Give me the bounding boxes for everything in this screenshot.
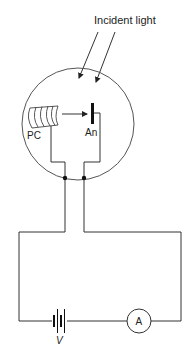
incident-light-arrows — [79, 32, 115, 82]
ammeter-label: A — [136, 316, 143, 327]
photoelectric-diagram: Incident light PC An V — [0, 0, 195, 357]
voltage-label: V — [56, 335, 64, 346]
light-ray-2 — [96, 32, 115, 82]
battery — [54, 309, 65, 333]
external-circuit — [19, 232, 181, 321]
incident-light-label: Incident light — [94, 14, 156, 26]
anode-label: An — [85, 127, 97, 138]
vacuum-tube — [22, 68, 134, 180]
junction-dot-right — [82, 176, 86, 180]
photocathode-label: PC — [27, 130, 41, 141]
photocathode — [28, 106, 58, 128]
anode — [91, 103, 94, 124]
ammeter: A — [127, 309, 151, 333]
junction-dot-left — [63, 176, 67, 180]
